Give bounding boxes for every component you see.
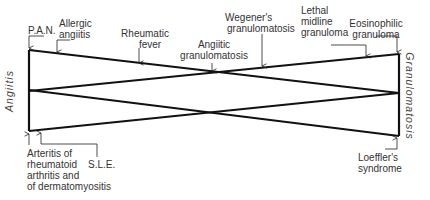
label-rheumatic-fever: Rheumatic fever [120, 28, 170, 50]
loefflers-pointer [385, 138, 397, 149]
lethal-midline-pointer [331, 45, 366, 56]
label-eosinophilic-granuloma: Eosinophilic granuloma [343, 18, 409, 40]
label-sle: S.L.E. [88, 159, 115, 170]
label-lethal-midline-granuloma: Lethal midline granuloma [301, 5, 348, 38]
lower-diagonal-down [29, 90, 399, 136]
label-angiitic-granulomatosis: Angiitic granulomatosis [180, 39, 248, 61]
lower-diagonal-up [29, 93, 399, 131]
axis-label-granulomatosis: Granulomatosis [404, 52, 416, 140]
label-allergic-angiitis: Allergic angiitis [59, 18, 92, 40]
label-pan: P.A.N. [28, 25, 56, 36]
label-wegeners-granulomatosis: Wegener's granulomatosis [225, 12, 295, 34]
label-loefflers-syndrome: Loeffler's syndrome [358, 152, 402, 174]
axis-label-angiitis: Angiitis [3, 70, 15, 112]
label-arteritis: Arteritis of rheumatoid arthritis and of… [27, 148, 111, 192]
pan-pointer [29, 36, 44, 48]
allergic-angiitis-pointer [57, 40, 70, 52]
